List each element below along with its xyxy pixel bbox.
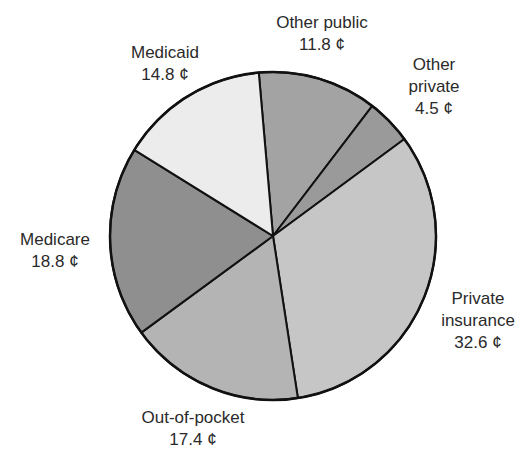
label-other-public-value: 11.8 ¢ xyxy=(262,34,382,56)
label-other-private-value: 4.5 ¢ xyxy=(396,98,472,120)
pie-slices xyxy=(110,72,436,400)
label-other-private: Other private 4.5 ¢ xyxy=(396,54,472,120)
label-out-of-pocket: Out-of-pocket 17.4 ¢ xyxy=(128,407,258,451)
label-other-private-name-1: Other xyxy=(396,54,472,76)
label-medicaid-value: 14.8 ¢ xyxy=(120,64,210,86)
label-medicaid: Medicaid 14.8 ¢ xyxy=(120,42,210,86)
label-medicare-value: 18.8 ¢ xyxy=(8,251,102,273)
label-other-public-name: Other public xyxy=(262,12,382,34)
label-private-insurance: Private insurance 32.6 ¢ xyxy=(430,288,526,354)
label-medicare: Medicare 18.8 ¢ xyxy=(8,229,102,273)
label-medicaid-name: Medicaid xyxy=(120,42,210,64)
label-private-insurance-name-2: insurance xyxy=(430,310,526,332)
label-other-private-name-2: private xyxy=(396,76,472,98)
label-out-of-pocket-name: Out-of-pocket xyxy=(128,407,258,429)
label-private-insurance-value: 32.6 ¢ xyxy=(430,332,526,354)
label-out-of-pocket-value: 17.4 ¢ xyxy=(128,429,258,451)
label-medicare-name: Medicare xyxy=(8,229,102,251)
label-private-insurance-name-1: Private xyxy=(430,288,526,310)
label-other-public: Other public 11.8 ¢ xyxy=(262,12,382,56)
